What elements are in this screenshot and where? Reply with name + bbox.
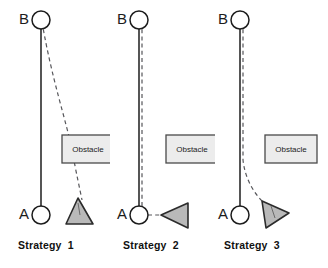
start-node-a: [130, 206, 148, 224]
robot-triangle: [262, 201, 289, 228]
goal-node-b: [32, 11, 50, 29]
start-node-a-label: A: [117, 205, 127, 222]
executed-path-dashed: [42, 22, 82, 200]
caption-strategy-1: Strategy 1: [18, 239, 74, 251]
goal-node-b-label: B: [218, 10, 228, 27]
obstacle-label: Obstacle: [176, 145, 208, 154]
strategy-1-panel: Obstacle B A: [0, 0, 110, 240]
start-node-a: [231, 206, 249, 224]
executed-path-dashed: [243, 22, 263, 202]
robot-triangle: [161, 203, 188, 228]
obstacle-label: Obstacle: [275, 145, 307, 154]
start-node-a: [32, 206, 50, 224]
start-node-a-label: A: [19, 205, 29, 222]
goal-node-b-label: B: [117, 10, 127, 27]
strategy-3-panel: Obstacle B A: [215, 0, 328, 240]
caption-strategy-3: Strategy 3: [224, 239, 280, 251]
goal-node-b: [231, 11, 249, 29]
caption-strategy-2: Strategy 2: [123, 239, 179, 251]
goal-node-b: [130, 11, 148, 29]
start-node-a-label: A: [218, 205, 228, 222]
strategy-2-panel: Obstacle B A: [110, 0, 215, 240]
obstacle-label: Obstacle: [72, 145, 104, 154]
figure-canvas: Obstacle B A Obstacle B A Obstacle B A: [0, 0, 328, 268]
goal-node-b-label: B: [19, 10, 29, 27]
